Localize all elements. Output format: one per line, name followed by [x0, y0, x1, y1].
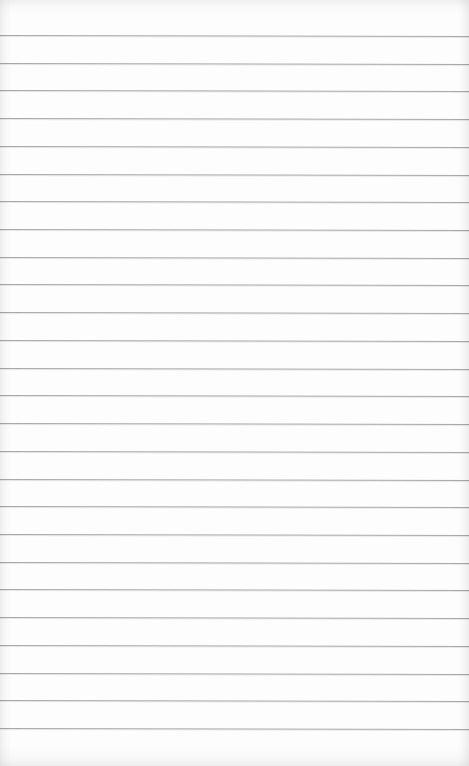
ruled-line	[0, 201, 469, 203]
ruled-line	[0, 728, 469, 730]
ruled-line	[0, 90, 469, 92]
ruled-line	[0, 617, 469, 619]
ruled-line	[0, 479, 469, 481]
ruled-line	[0, 312, 469, 314]
ruled-line	[0, 589, 469, 591]
ruled-line	[0, 673, 469, 675]
ruled-line	[0, 174, 469, 176]
ruled-line	[0, 451, 469, 453]
lined-paper	[0, 0, 469, 766]
ruled-line	[0, 506, 469, 508]
ruled-line	[0, 63, 469, 65]
ruled-line	[0, 645, 469, 647]
ruled-line	[0, 395, 469, 397]
ruled-line	[0, 284, 469, 286]
ruled-line	[0, 229, 469, 231]
ruled-line	[0, 146, 469, 148]
ruled-line	[0, 534, 469, 536]
ruled-line	[0, 562, 469, 564]
ruled-line	[0, 368, 469, 370]
ruled-line	[0, 118, 469, 120]
ruled-line	[0, 423, 469, 425]
ruled-line	[0, 340, 469, 342]
ruled-line	[0, 257, 469, 259]
ruled-line	[0, 700, 469, 702]
ruled-line	[0, 35, 469, 37]
paper-edge-shading	[0, 0, 469, 766]
